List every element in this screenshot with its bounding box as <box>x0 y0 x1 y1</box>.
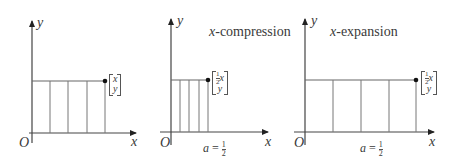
x-axis-label: x <box>131 135 137 149</box>
point-vector-label: 12x y <box>421 71 437 95</box>
panel-title-expansion: x-expansion <box>330 25 398 39</box>
origin-label: O <box>294 136 304 150</box>
point-marker <box>206 78 211 83</box>
x-axis-label: x <box>429 135 435 149</box>
point-marker <box>414 78 419 83</box>
y-axis-label: y <box>177 14 183 28</box>
parameter-caption: a = 12 <box>203 141 226 158</box>
y-axis-label: y <box>37 16 43 30</box>
point-marker <box>103 79 108 84</box>
parameter-caption: a = 12 <box>360 141 383 158</box>
origin-label: O <box>160 136 170 150</box>
x-axis-label: x <box>265 135 271 149</box>
origin-label: O <box>19 136 29 150</box>
point-vector-label: x y <box>109 74 121 96</box>
panel-title-compression: x-compression <box>209 25 291 39</box>
point-vector-label: 12x y <box>212 71 228 95</box>
y-axis-label: y <box>311 14 317 28</box>
